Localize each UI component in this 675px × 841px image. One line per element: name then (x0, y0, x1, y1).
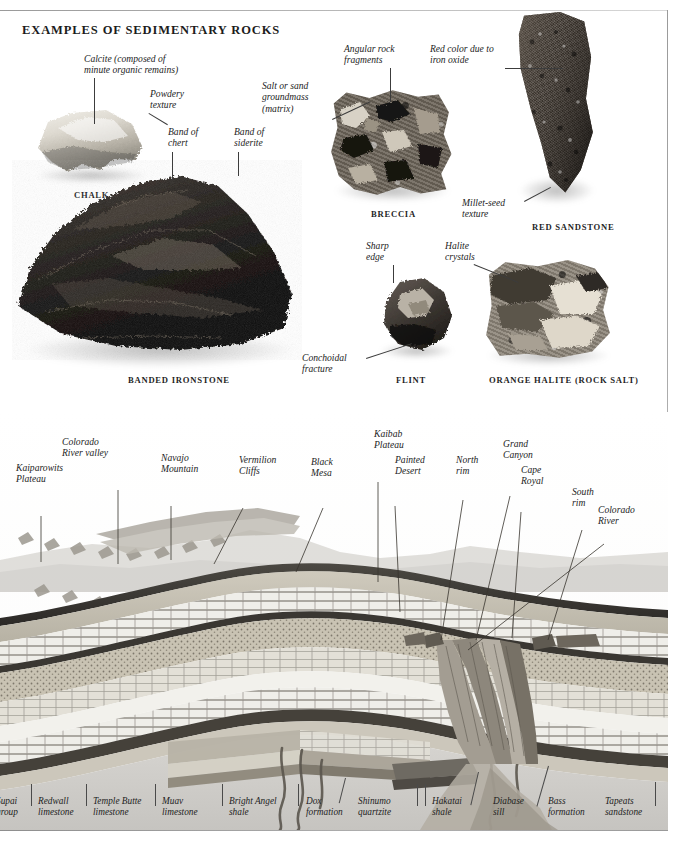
label-salt-or-sand-groundmass: Salt or sand groundmass (matrix) (262, 80, 309, 114)
flint-rock-image (374, 272, 456, 356)
strata-tick (417, 784, 418, 806)
label-south-rim: South rim (572, 486, 594, 509)
strata-label-tapeats-sandstone: Tapeats sandstone (605, 796, 642, 818)
strata-tick (155, 784, 156, 806)
leader-red-color-iron-oxide (505, 68, 563, 69)
specimen-banded-ironstone (12, 160, 302, 360)
red-sandstone-rock-image (512, 12, 598, 200)
label-powdery-texture: Powdery texture (150, 88, 184, 111)
label-colorado-river: Colorado River (598, 504, 635, 527)
leader-angular-rock-fragments (390, 68, 391, 102)
label-halite-crystals: Halite crystals (445, 240, 475, 263)
caption-breccia: BRECCIA (371, 209, 416, 219)
leader-calcite (94, 78, 95, 124)
grand-canyon-cross-section: Kaiparowits Plateau Colorado River valle… (0, 412, 668, 830)
label-black-mesa: Black Mesa (311, 456, 333, 479)
caption-orange-halite: ORANGE HALITE (ROCK SALT) (489, 375, 639, 385)
page-title: EXAMPLES OF SEDIMENTARY ROCKS (22, 23, 280, 38)
strata-tick (425, 784, 426, 806)
strata-tick (298, 784, 299, 806)
strata-label-hakatai-shale: Hakatai shale (432, 796, 462, 818)
label-grand-canyon: Grand Canyon (503, 438, 533, 461)
strata-label-redwall-limestone: Redwall limestone (38, 796, 74, 818)
label-millet-seed-texture: Millet-seed texture (462, 197, 505, 220)
label-navajo-mountain: Navajo Mountain (161, 452, 198, 475)
strata-label-temple-butte-limestone: Temple Butte limestone (93, 796, 141, 818)
strata-label-dox-formation: Dox formation (306, 796, 343, 818)
label-kaiparowits-plateau: Kaiparowits Plateau (16, 462, 63, 485)
strata-label-diabase-sill: Diabase sill (493, 796, 524, 818)
leader-band-of-siderite (238, 152, 239, 176)
leader-powdery-texture (148, 113, 167, 125)
label-band-of-siderite: Band of siderite (234, 126, 264, 149)
label-cape-royal: Cape Royal (521, 464, 543, 487)
label-calcite: Calcite (composed of minute organic rema… (84, 53, 178, 76)
specimen-flint (374, 272, 456, 356)
leader-band-of-chert (172, 152, 173, 180)
label-sharp-edge: Sharp edge (366, 240, 389, 263)
top-rule (0, 10, 668, 11)
strata-label-muav-limestone: Muav limestone (162, 796, 198, 818)
label-angular-rock-fragments: Angular rock fragments (344, 43, 395, 66)
label-conchoidal-fracture: Conchoidal fracture (302, 352, 347, 375)
strata-label-shinumo-quartzite: Shinumo quartzite (358, 796, 391, 818)
specimen-red-sandstone (512, 12, 598, 200)
bottom-rule (0, 830, 668, 831)
caption-banded-ironstone: BANDED IRONSTONE (128, 375, 230, 385)
strata-tick (655, 782, 656, 806)
strata-label-bass-formation: Bass formation (548, 796, 585, 818)
label-vermilion-cliffs: Vermilion Cliffs (239, 454, 276, 477)
caption-flint: FLINT (396, 375, 426, 385)
strata-label-bright-angel-shale: Bright Angel shale (229, 796, 277, 818)
banded-ironstone-rock-image (12, 160, 302, 360)
leader-sharp-edge (393, 265, 394, 283)
encyclopedia-plate: EXAMPLES OF SEDIMENTARY ROCKS (0, 0, 675, 841)
strata-tick (86, 784, 87, 806)
specimen-breccia (326, 88, 454, 198)
label-colorado-river-valley: Colorado River valley (62, 436, 108, 459)
breccia-rock-image (326, 88, 454, 198)
label-kaibab-plateau: Kaibab Plateau (374, 428, 404, 451)
label-band-of-chert: Band of chert (168, 126, 198, 149)
label-red-color-iron-oxide: Red color due to iron oxide (430, 43, 494, 66)
label-painted-desert: Painted Desert (395, 454, 425, 477)
strata-label-row: Supai group Redwall limestone Temple But… (0, 788, 668, 830)
strata-tick (31, 784, 32, 806)
strata-label-supai-group: Supai group (0, 796, 18, 818)
strata-tick (222, 784, 223, 806)
caption-red-sandstone: RED SANDSTONE (532, 222, 614, 232)
label-north-rim: North rim (456, 454, 478, 477)
